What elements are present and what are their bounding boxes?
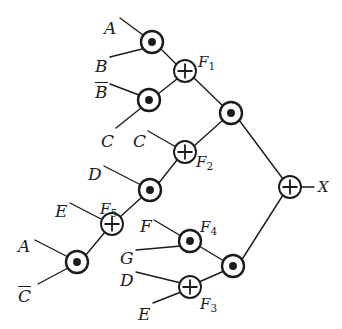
wire [158,79,177,94]
wire [241,195,283,261]
gate-label-subscript: 4 [210,225,217,237]
gate-label-label-f3: F3 [200,297,217,313]
wire [199,246,224,261]
wire [199,271,224,282]
gate-label-subscript: 5 [110,207,117,219]
xor-gate-icon[interactable] [279,176,301,198]
wire [38,268,68,284]
wire [120,18,143,35]
input-label-in-b-bar: B [95,82,108,101]
and-gate-icon[interactable] [139,179,161,201]
wire [120,197,142,217]
wire [194,78,223,106]
gate-label-label-x: X [318,180,329,195]
and-gate-icon[interactable] [66,251,88,273]
and-gate-icon[interactable] [138,89,160,111]
input-label-in-b: B [95,58,108,75]
input-label-in-c-left: C [101,133,114,150]
wire [136,272,181,283]
gate-label-subscript: 2 [206,160,213,172]
gate-label-label-f5: F5 [100,202,117,218]
wire [110,84,139,95]
and-dot-glyph [229,262,237,270]
and-dot-glyph [148,38,156,46]
and-gate-icon[interactable] [220,102,242,124]
gate-label-label-f2: F2 [196,155,213,171]
input-label-in-e-lower: E [138,306,150,323]
and-gate-icon[interactable] [222,255,244,277]
wire [70,203,103,220]
wire [148,131,176,147]
circuit-diagram-canvas [0,0,342,329]
wire [158,160,177,184]
and-gate-icon[interactable] [179,230,201,252]
complement-overline: C [18,286,31,305]
and-dot-glyph [146,186,154,194]
wire [104,166,141,185]
and-dot-glyph [227,109,235,117]
wire [154,220,181,236]
input-label-in-c-mid: C [133,133,146,150]
and-dot-glyph [186,237,194,245]
wire [194,120,223,146]
input-label-in-a-top: A [104,20,116,37]
wire [35,240,68,257]
gate-label-subscript: 1 [208,60,215,72]
xor-gate-icon[interactable] [179,276,201,298]
and-dot-glyph [73,258,81,266]
input-label-in-d-lower: D [120,272,134,289]
input-label-in-a-lower: A [18,238,30,255]
and-gate-icon[interactable] [141,31,163,53]
wire [85,232,105,256]
input-label-in-d-upper: D [88,166,102,183]
input-label-in-c-bar: C [18,286,31,305]
wire [110,49,142,57]
xor-gate-icon[interactable] [174,141,196,163]
gate-label-label-f1: F1 [198,55,215,71]
xor-gate-icon[interactable] [174,60,196,82]
and-dot-glyph [145,96,153,104]
wire [239,120,283,179]
wire [153,292,181,303]
wire [136,246,181,250]
input-label-in-f: F [140,218,152,235]
gate-label-subscript: 3 [210,302,217,314]
input-label-in-e-upper: E [55,203,67,220]
complement-overline: B [95,82,108,101]
gate-label-label-f4: F4 [200,220,217,236]
wire [116,108,141,128]
input-label-in-g: G [120,250,134,267]
wire [161,49,176,64]
